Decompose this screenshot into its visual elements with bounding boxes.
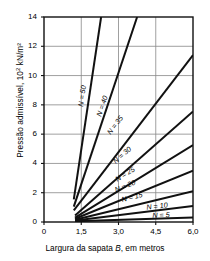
y-tick-label: 10 xyxy=(19,71,37,80)
chart-figure: Pressão admissível, 102 kN/m² Largura da… xyxy=(0,0,210,261)
x-tick-label: 0 xyxy=(32,227,56,236)
y-tick-label: 12 xyxy=(19,41,37,50)
y-tick-label: 0 xyxy=(19,217,37,226)
curve-label-N5: N = 5 xyxy=(152,211,170,221)
x-axis-label: Largura da sapata B, em metros xyxy=(0,243,210,253)
x-tick-label: 3,0 xyxy=(107,227,131,236)
y-tick-label: 2 xyxy=(19,188,37,197)
y-tick-label: 8 xyxy=(19,100,37,109)
y-tick-label: 14 xyxy=(19,12,37,21)
y-tick-label: 4 xyxy=(19,158,37,167)
x-tick-label: 6,0 xyxy=(181,227,205,236)
x-tick-label: 4,5 xyxy=(144,227,168,236)
x-axis-label-tail: , em metros xyxy=(121,243,165,253)
x-tick-label: 1,5 xyxy=(69,227,93,236)
x-axis-label-text: Largura da sapata xyxy=(45,243,115,253)
y-tick-label: 6 xyxy=(19,129,37,138)
